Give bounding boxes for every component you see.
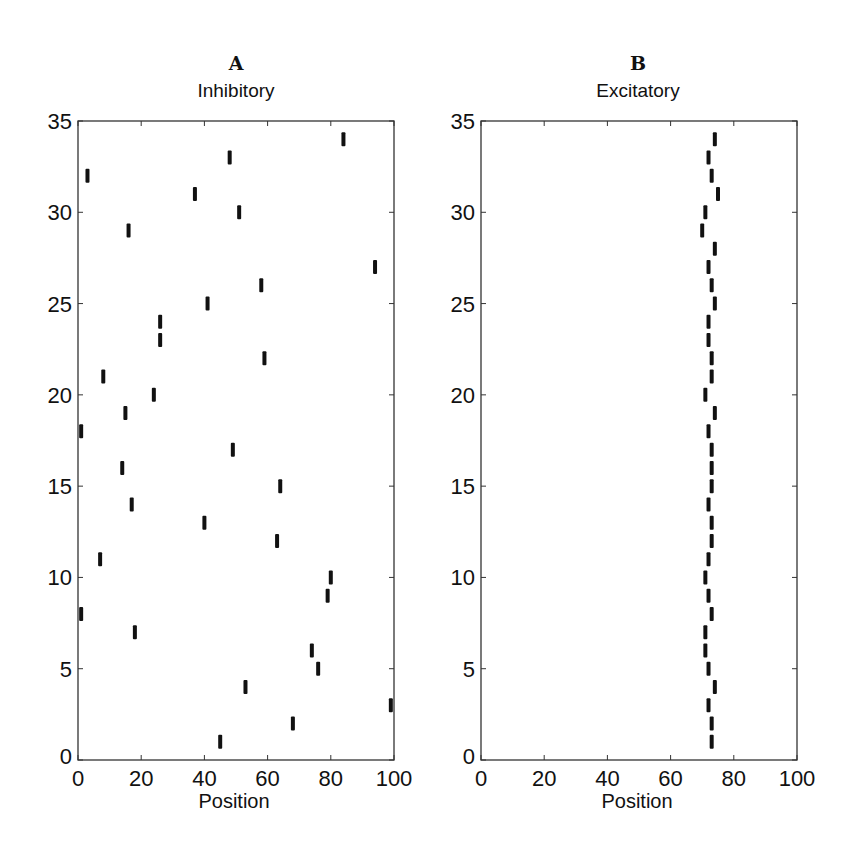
spike-marker — [85, 169, 89, 183]
spike-marker — [700, 224, 704, 238]
x-tick-label: 20 — [129, 766, 153, 791]
spike-marker — [341, 132, 345, 146]
inhibitory-plot: 02040608010005101520253035Position — [48, 109, 413, 812]
y-tick-label: 5 — [60, 657, 72, 682]
spike-marker — [158, 315, 162, 329]
spike-marker — [79, 424, 83, 438]
spike-marker — [206, 297, 210, 311]
x-tick-label: 80 — [722, 766, 746, 791]
spike-marker — [707, 552, 711, 566]
spike-marker — [707, 589, 711, 603]
y-tick-label: 35 — [451, 109, 475, 134]
spike-marker — [152, 388, 156, 402]
spike-marker — [716, 187, 720, 201]
y-tick-label: 0 — [463, 744, 475, 769]
y-tick-label: 20 — [48, 383, 72, 408]
y-tick-label: 30 — [451, 200, 475, 225]
y-tick-label: 10 — [451, 565, 475, 590]
spike-marker — [713, 132, 717, 146]
spike-marker — [158, 333, 162, 347]
spike-marker — [710, 443, 714, 457]
spike-marker — [329, 570, 333, 584]
y-tick-label: 20 — [451, 383, 475, 408]
plot-frame — [78, 121, 394, 760]
y-tick-label: 10 — [48, 565, 72, 590]
y-tick-label: 15 — [451, 474, 475, 499]
spike-marker — [291, 716, 295, 730]
spike-marker — [707, 151, 711, 165]
spike-marker — [713, 242, 717, 256]
y-tick-label: 25 — [48, 292, 72, 317]
spike-marker — [275, 534, 279, 548]
spike-marker — [127, 224, 131, 238]
spike-marker — [707, 260, 711, 274]
x-tick-label: 0 — [72, 766, 84, 791]
spike-marker — [79, 607, 83, 621]
spike-marker — [123, 406, 127, 420]
x-axis-label: Position — [198, 790, 269, 812]
spike-marker — [710, 735, 714, 749]
figure: 02040608010005101520253035Position 02040… — [0, 0, 859, 854]
spike-marker — [713, 297, 717, 311]
spike-marker — [703, 625, 707, 639]
plot-frame — [481, 121, 797, 760]
spike-marker — [707, 424, 711, 438]
spike-marker — [259, 278, 263, 292]
x-tick-label: 100 — [779, 766, 816, 791]
x-tick-label: 40 — [192, 766, 216, 791]
y-tick-label: 35 — [48, 109, 72, 134]
spike-marker — [710, 516, 714, 530]
x-tick-label: 40 — [595, 766, 619, 791]
spike-marker — [326, 589, 330, 603]
spike-marker — [98, 552, 102, 566]
spike-marker — [703, 570, 707, 584]
x-tick-label: 0 — [475, 766, 487, 791]
x-tick-label: 60 — [658, 766, 682, 791]
spike-marker — [710, 370, 714, 384]
spike-marker — [231, 443, 235, 457]
y-tick-label: 15 — [48, 474, 72, 499]
spike-marker — [713, 406, 717, 420]
spike-marker — [710, 607, 714, 621]
x-tick-label: 60 — [255, 766, 279, 791]
spike-marker — [262, 351, 266, 365]
spike-marker — [707, 662, 711, 676]
spike-marker — [710, 534, 714, 548]
x-tick-label: 80 — [319, 766, 343, 791]
spike-marker — [710, 716, 714, 730]
spike-marker — [373, 260, 377, 274]
spike-marker — [237, 205, 241, 219]
spike-marker — [707, 315, 711, 329]
spike-marker — [228, 151, 232, 165]
spike-marker — [101, 370, 105, 384]
spike-marker — [713, 680, 717, 694]
y-tick-label: 0 — [60, 744, 72, 769]
spike-marker — [703, 388, 707, 402]
x-axis-label: Position — [601, 790, 672, 812]
y-tick-label: 5 — [463, 657, 475, 682]
y-tick-label: 25 — [451, 292, 475, 317]
x-tick-label: 20 — [532, 766, 556, 791]
y-tick-label: 30 — [48, 200, 72, 225]
spike-marker — [316, 662, 320, 676]
spike-marker — [710, 169, 714, 183]
spike-marker — [310, 643, 314, 657]
spike-marker — [389, 698, 393, 712]
spike-marker — [707, 698, 711, 712]
spike-marker — [710, 351, 714, 365]
excitatory-plot: 02040608010005101520253035Position — [451, 109, 816, 812]
spike-marker — [707, 497, 711, 511]
spike-marker — [703, 643, 707, 657]
spike-marker — [243, 680, 247, 694]
spike-marker — [218, 735, 222, 749]
spike-marker — [710, 461, 714, 475]
x-tick-label: 100 — [376, 766, 413, 791]
spike-marker — [710, 479, 714, 493]
spike-marker — [278, 479, 282, 493]
spike-marker — [703, 205, 707, 219]
spike-marker — [707, 333, 711, 347]
spike-marker — [120, 461, 124, 475]
spike-marker — [130, 497, 134, 511]
spike-marker — [193, 187, 197, 201]
spike-marker — [202, 516, 206, 530]
